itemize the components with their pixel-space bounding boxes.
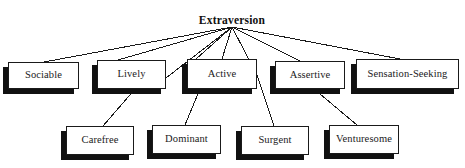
node-box-sensation-seeking[interactable]: Sensation-Seeking bbox=[356, 59, 459, 89]
extraversion-hierarchy-diagram: Extraversion Sociable Lively Active Asse… bbox=[0, 0, 465, 168]
node-box-carefree[interactable]: Carefree bbox=[66, 126, 134, 155]
node-box-active[interactable]: Active bbox=[187, 59, 257, 89]
node-box-lively[interactable]: Lively bbox=[97, 60, 166, 89]
node-box-venturesome[interactable]: Venturesome bbox=[329, 125, 399, 154]
root-node-label: Extraversion bbox=[0, 14, 464, 26]
nodes-layer: Extraversion Sociable Lively Active Asse… bbox=[0, 0, 465, 168]
node-box-sociable[interactable]: Sociable bbox=[8, 62, 79, 89]
node-box-assertive[interactable]: Assertive bbox=[275, 61, 345, 89]
node-box-surgent[interactable]: Surgent bbox=[241, 126, 309, 155]
node-box-dominant[interactable]: Dominant bbox=[152, 125, 221, 154]
